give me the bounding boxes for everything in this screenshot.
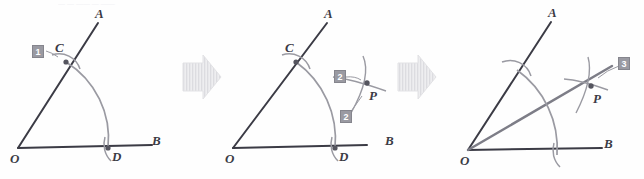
panel-2-ray-ob xyxy=(233,145,367,148)
panel-1-point-d-dot xyxy=(105,145,110,150)
arrow-2-3-group xyxy=(398,55,436,99)
panel-1-arc-cd xyxy=(66,62,109,148)
panel-3-point-p-dot xyxy=(588,83,593,88)
right-arrow-icon xyxy=(398,55,436,99)
panel-2-arc-from-d xyxy=(351,56,366,113)
panel-2-label-b: B xyxy=(385,134,394,147)
panel-1-step-badge: 1 xyxy=(32,45,44,58)
angle-bisector-construction-figure: — — —— — —— xyxy=(0,0,644,179)
panel-2-arc-cd xyxy=(296,62,335,148)
panel-1-label-o: O xyxy=(10,152,19,165)
panel-3-ray-oa xyxy=(468,22,551,150)
panel-2-point-c-dot xyxy=(293,59,298,64)
panel-2-label-d: D xyxy=(339,150,348,163)
panel-3-label-p: P xyxy=(593,92,601,105)
panel-2-point-d-dot xyxy=(332,145,337,150)
panel-3-label-b: B xyxy=(604,137,613,150)
panel-3-step-badge: 3 xyxy=(618,57,630,70)
panel-2-label-o: O xyxy=(225,152,234,165)
panel-1-ray-ob xyxy=(18,145,152,148)
panel-1-label-d: D xyxy=(112,150,121,163)
panel-2-point-p-dot xyxy=(364,80,369,85)
panel-1-label-b: B xyxy=(152,134,161,147)
panel-3-ray-ob xyxy=(468,148,602,150)
panel-3-label-o: O xyxy=(460,154,469,167)
construction-drawing-canvas xyxy=(0,0,644,179)
panel-1-group xyxy=(18,23,152,161)
panel-2-label-c: C xyxy=(285,41,294,54)
panel-2-badge-lower-leader xyxy=(352,96,362,110)
panel-1-label-c: C xyxy=(55,41,64,54)
right-arrow-icon xyxy=(183,55,221,99)
panel-3-label-a: A xyxy=(548,6,557,19)
panel-2-ray-oa xyxy=(233,23,327,148)
panel-2-group xyxy=(233,23,386,161)
panel-1-point-c-dot xyxy=(63,59,68,64)
arrow-1-2-group xyxy=(183,55,221,99)
panel-3-arc-cd xyxy=(517,70,557,155)
panel-1-label-a: A xyxy=(95,7,104,20)
panel-2-label-p: P xyxy=(369,89,377,102)
panel-3-bisector-ray-op xyxy=(468,66,612,150)
panel-2-step-badge-lower: 2 xyxy=(340,110,352,123)
panel-2-label-a: A xyxy=(324,7,333,20)
panel-2-step-badge-upper: 2 xyxy=(334,70,346,83)
